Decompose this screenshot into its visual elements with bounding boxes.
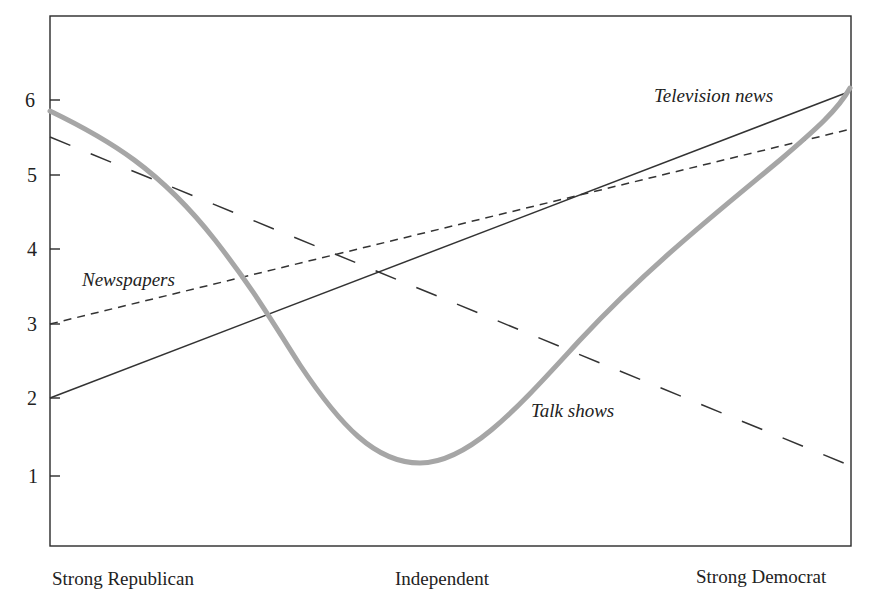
series-newspapers <box>50 129 851 324</box>
y-tick-label-1: 1 <box>28 465 38 487</box>
y-tick-labels: 1 2 3 4 5 6 <box>25 89 38 487</box>
y-tick-label-6: 6 <box>25 89 35 111</box>
label-newspapers: Newspapers <box>81 269 175 290</box>
y-tick-label-4: 4 <box>27 238 37 260</box>
series-television-news <box>50 91 851 398</box>
line-chart: 1 2 3 4 5 6 Television news Newspapers T… <box>0 0 873 605</box>
y-tick-label-3: 3 <box>27 313 37 335</box>
label-television-news: Television news <box>654 85 773 106</box>
y-tick-label-2: 2 <box>27 387 37 409</box>
x-label-strong-republican: Strong Republican <box>52 568 194 589</box>
x-label-strong-democrat: Strong Democrat <box>696 566 827 587</box>
label-talk-shows: Talk shows <box>531 400 614 421</box>
y-tick-label-5: 5 <box>27 164 37 186</box>
y-axis <box>50 100 60 476</box>
series-long-dashed <box>50 137 851 466</box>
x-label-independent: Independent <box>395 568 490 589</box>
